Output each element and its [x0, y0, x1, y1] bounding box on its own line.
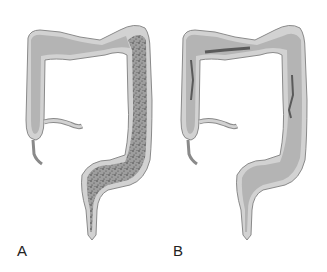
colon-diagram: [0, 0, 327, 272]
colon-a: [26, 25, 152, 240]
colon-b: [181, 25, 307, 240]
panel-label-b: B: [173, 242, 183, 259]
colon-b-appendix: [188, 140, 197, 164]
panel-label-a: A: [17, 242, 27, 259]
colon-a-appendix: [33, 140, 42, 164]
